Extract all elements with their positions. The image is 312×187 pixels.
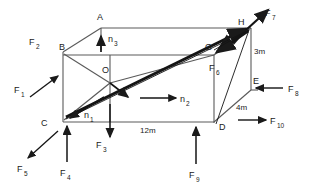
force-label-F4: F 4 xyxy=(60,168,71,181)
edge-b-a xyxy=(63,28,101,52)
vertex-label-C: C xyxy=(41,118,48,128)
arrow-f1 xyxy=(30,76,58,97)
svg-text:F: F xyxy=(265,8,271,18)
figure-canvas: A B C D E G H O F 1 F 2 F 3 F xyxy=(0,0,312,187)
normal-label-n1: n 1 xyxy=(84,110,94,123)
svg-text:n: n xyxy=(180,94,185,104)
vertex-label-B: B xyxy=(59,42,65,52)
svg-text:9: 9 xyxy=(196,176,200,183)
svg-text:1: 1 xyxy=(90,116,94,123)
vertex-label-D: D xyxy=(219,122,226,132)
svg-text:F: F xyxy=(14,85,20,95)
force-label-F1: F 1 xyxy=(14,85,25,98)
svg-text:F: F xyxy=(209,63,215,73)
vertex-label-E: E xyxy=(253,76,259,86)
vertex-label-G: G xyxy=(205,42,212,52)
svg-text:1: 1 xyxy=(21,91,25,98)
svg-text:n: n xyxy=(84,110,89,120)
dimension-height: 3m xyxy=(254,47,265,56)
vertex-label-H: H xyxy=(238,17,245,27)
svg-text:10: 10 xyxy=(277,122,285,129)
svg-text:F: F xyxy=(288,84,294,94)
svg-text:F: F xyxy=(17,164,23,174)
svg-text:F: F xyxy=(270,116,276,126)
svg-text:7: 7 xyxy=(272,14,276,21)
svg-text:2: 2 xyxy=(36,43,40,50)
dimension-depth: 4m xyxy=(236,103,247,112)
svg-text:5: 5 xyxy=(24,170,28,177)
force-labels: F 1 F 2 F 3 F 4 F 5 F 6 xyxy=(14,8,299,183)
force-label-F10: F 10 xyxy=(270,116,285,129)
arrow-f5 xyxy=(28,131,58,158)
normal-label-n3: n 3 xyxy=(108,34,118,47)
force-diagram-svg: A B C D E G H O F 1 F 2 F 3 F xyxy=(0,0,312,187)
svg-text:8: 8 xyxy=(295,90,299,97)
normal-labels: n 1 n 2 n 3 xyxy=(84,34,190,123)
svg-text:3: 3 xyxy=(114,40,118,47)
svg-text:F: F xyxy=(60,168,66,178)
svg-text:n: n xyxy=(108,34,113,44)
force-label-F7: F 7 xyxy=(265,8,276,21)
vertex-label-O: O xyxy=(102,65,109,75)
svg-text:2: 2 xyxy=(186,100,190,107)
svg-text:3: 3 xyxy=(103,146,107,153)
force-label-F8: F 8 xyxy=(288,84,299,97)
svg-text:4: 4 xyxy=(67,174,71,181)
svg-text:F: F xyxy=(96,140,102,150)
force-label-F5: F 5 xyxy=(17,164,28,177)
vertex-label-A: A xyxy=(97,12,103,22)
svg-text:F: F xyxy=(29,37,35,47)
force-label-F9: F 9 xyxy=(189,170,200,183)
force-label-F3: F 3 xyxy=(96,140,107,153)
thick-diagonal-group xyxy=(66,29,249,124)
dimension-width: 12m xyxy=(140,126,156,135)
svg-text:6: 6 xyxy=(216,69,220,76)
normal-label-n2: n 2 xyxy=(180,94,190,107)
thin-ray-h-to-c xyxy=(66,30,249,119)
svg-text:F: F xyxy=(189,170,195,180)
force-label-F2: F 2 xyxy=(29,37,40,50)
